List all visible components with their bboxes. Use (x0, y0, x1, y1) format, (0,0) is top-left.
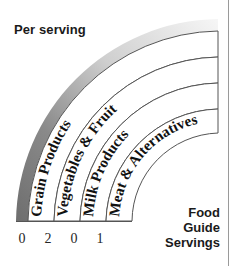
servings-value-meat-alternatives: 1 (87, 231, 113, 247)
caption-line-servings: Servings (165, 235, 220, 250)
caption-line-food: Food (165, 205, 220, 220)
servings-value-milk-products: 0 (61, 231, 87, 247)
food-guide-rainbow-figure: Per serving Gr (0, 0, 234, 266)
servings-value-vegetables-fruit: 2 (35, 231, 61, 247)
caption-line-guide: Guide (165, 220, 220, 235)
servings-value-grain-products: 0 (9, 231, 35, 247)
food-guide-servings-caption: Food Guide Servings (165, 205, 220, 250)
